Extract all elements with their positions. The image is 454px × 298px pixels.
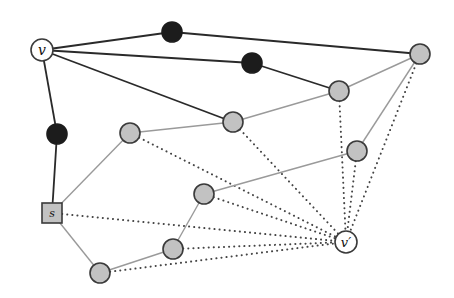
- dark-edge-b3-s: [52, 134, 57, 213]
- dotted-edge-g7-vp: [173, 242, 346, 249]
- node-b2: [242, 53, 262, 73]
- node-g1: [410, 44, 430, 64]
- gray-edge-g3-g2: [233, 91, 339, 122]
- dotted-edge-g5-vp: [346, 151, 357, 242]
- dotted-edge-s-vp: [52, 213, 346, 242]
- dark-edge-v-b3: [42, 50, 57, 134]
- gray-edge-g7-g8: [100, 249, 173, 273]
- node-g6: [194, 184, 214, 204]
- dark-edge-b2-g2: [252, 63, 339, 91]
- graph-diagram: v s v′: [0, 0, 454, 298]
- node-g7: [163, 239, 183, 259]
- dotted-edges: [52, 54, 420, 273]
- node-g4: [120, 123, 140, 143]
- node-label-v-prime: v′: [341, 235, 351, 250]
- node-b3: [47, 124, 67, 144]
- gray-edge-g5-g6: [204, 151, 357, 194]
- dotted-edge-g3-vp: [233, 122, 346, 242]
- node-label-v: v: [38, 42, 46, 58]
- gray-edges: [52, 54, 420, 273]
- node-label-s: s: [49, 207, 55, 220]
- gray-edge-g4-g3: [130, 122, 233, 133]
- dark-edge-v-b1: [42, 32, 172, 50]
- dotted-edge-g4-vp: [130, 133, 346, 242]
- dark-edge-b1-g1: [172, 32, 420, 54]
- node-g2: [329, 81, 349, 101]
- dotted-edge-g8-vp: [100, 242, 346, 273]
- gray-edge-s-g4: [52, 133, 130, 213]
- dotted-edge-g2-vp: [339, 91, 346, 242]
- node-g8: [90, 263, 110, 283]
- node-g5: [347, 141, 367, 161]
- node-b1: [162, 22, 182, 42]
- node-g3: [223, 112, 243, 132]
